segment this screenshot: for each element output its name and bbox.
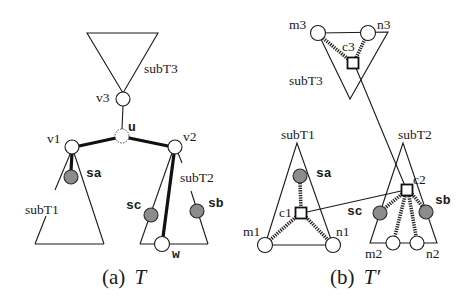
edge-c1-m1: [270, 217, 296, 240]
caption-a-var: T: [135, 265, 148, 289]
label-subT3: subT3: [289, 73, 323, 88]
node-v1: [65, 140, 79, 154]
caption-b: (b) T′: [330, 265, 380, 289]
panel-a-tree-T: subT3 v3 u v1 v2 sa subT1 subT2 sc sb w …: [25, 33, 224, 289]
edge-u-v2: [129, 138, 168, 146]
node-v2: [168, 140, 182, 154]
label-m1: m1: [243, 224, 260, 239]
label-sb: sb: [435, 193, 451, 208]
node-sc: [373, 206, 387, 220]
node-v3: [116, 92, 130, 106]
label-n3: n3: [377, 17, 391, 32]
label-sc: sc: [126, 198, 142, 213]
caption-a: (a) T: [102, 265, 148, 289]
node-sc: [144, 208, 158, 222]
label-subT3: subT3: [144, 61, 178, 76]
node-n2: [410, 236, 424, 250]
node-c1: [296, 208, 307, 219]
node-u: [115, 129, 129, 143]
node-sa: [293, 169, 307, 183]
edge-n3-c3: [356, 39, 365, 58]
label-sa: sa: [316, 166, 332, 181]
edge-u-v1: [79, 138, 116, 146]
label-subT2: subT2: [398, 127, 432, 142]
subtree-subT2-right-edge-top: [178, 153, 182, 163]
edge-sa-c1: [300, 183, 301, 208]
label-v1: v1: [47, 131, 61, 146]
node-sb: [190, 204, 204, 218]
node-c2: [402, 185, 413, 196]
edge-v2-w: [163, 154, 174, 237]
label-c1: c1: [279, 205, 292, 220]
label-subT1: subT1: [281, 127, 315, 142]
label-subT1: subT1: [25, 202, 59, 217]
label-sc: sc: [347, 204, 363, 219]
node-c3: [348, 58, 359, 69]
label-sb: sb: [208, 196, 224, 211]
node-m3: [311, 26, 326, 41]
label-v3: v3: [96, 90, 110, 105]
tree-transformation-figure: subT3 v3 u v1 v2 sa subT1 subT2 sc sb w …: [0, 0, 476, 305]
edge-c2-n2: [409, 196, 416, 236]
subtree-subT1-triangle: [265, 143, 333, 245]
edge-c2-m2: [395, 196, 405, 236]
node-sa: [64, 170, 78, 184]
label-u: u: [128, 120, 136, 135]
panel-b-tree-T-prime: m3 n3 c3 subT3 subT1 subT2 sa c2 sb sc c…: [243, 17, 451, 289]
label-n2: n2: [426, 246, 440, 261]
label-v2: v2: [183, 129, 197, 144]
edge-v1-sa: [71, 153, 72, 171]
label-c2: c2: [413, 172, 426, 187]
node-m1: [258, 238, 273, 253]
label-n1: n1: [336, 224, 350, 239]
label-w: w: [172, 247, 180, 262]
label-m3: m3: [289, 17, 307, 32]
node-sb: [419, 205, 433, 219]
node-m2: [386, 236, 400, 250]
edge-v3-u: [122, 106, 123, 129]
node-n3: [361, 26, 376, 41]
caption-b-var: T′: [364, 265, 381, 289]
label-c3: c3: [342, 39, 355, 54]
caption-b-prefix: (b): [330, 265, 355, 289]
label-m2: m2: [365, 246, 382, 261]
subtree-subT1-left-edge-bottom: [35, 216, 46, 244]
caption-a-prefix: (a): [102, 265, 125, 289]
label-subT2: subT2: [180, 170, 214, 185]
node-n1: [326, 238, 341, 253]
edge-c2-sc: [385, 194, 402, 208]
label-sa: sa: [86, 166, 102, 181]
node-w: [155, 237, 170, 252]
